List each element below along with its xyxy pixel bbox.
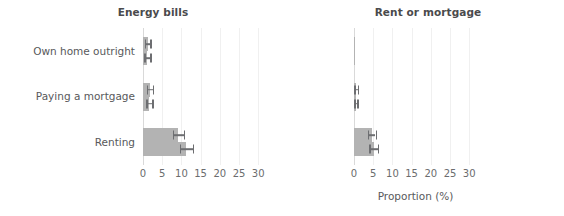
error-bar-cap — [173, 131, 175, 140]
x-axis-rent-or-mortgage: 0 5 10 15 20 25 30 — [354, 165, 477, 187]
y-tick-label-own-home-outright: Own home outright — [33, 45, 135, 57]
bar-row — [143, 97, 266, 111]
x-tick-label: 20 — [424, 168, 437, 179]
error-bar-cap — [368, 131, 370, 140]
bar-row — [143, 128, 266, 142]
bar-row — [354, 97, 477, 111]
x-axis-energy-bills: 0 5 10 15 20 25 30 — [143, 165, 266, 187]
error-bar-cap — [193, 145, 195, 154]
error-bar-cap — [354, 85, 356, 94]
x-tick-label: 10 — [175, 168, 188, 179]
bar-row — [354, 51, 477, 65]
bar-row — [354, 37, 477, 51]
bar-row — [354, 128, 477, 142]
x-tick-label: 15 — [405, 168, 418, 179]
panel-energy-bills: Energy bills Own home outright — [0, 0, 282, 216]
error-bar-cap — [180, 145, 182, 154]
error-bar-cap — [152, 99, 154, 108]
x-tick-label: 0 — [140, 168, 146, 179]
category-group-paying-a-mortgage: Paying a mortgage — [143, 74, 266, 120]
bar-row — [143, 83, 266, 97]
x-tick-label: 5 — [370, 168, 376, 179]
error-bar-cap — [147, 85, 149, 94]
x-tick-label: 15 — [194, 168, 207, 179]
x-tick-label: 30 — [463, 168, 476, 179]
error-bar-cap — [146, 99, 148, 108]
figure: Energy bills Own home outright — [0, 0, 564, 216]
error-bar — [173, 134, 184, 136]
x-tick-label: 20 — [213, 168, 226, 179]
plot-area-energy-bills: Own home outright Paying a mortgage — [143, 28, 266, 165]
error-bar-cap — [358, 85, 360, 94]
panel-title-rent-or-mortgage: Rent or mortgage — [282, 6, 564, 18]
error-bar-cap — [150, 54, 152, 63]
error-bar-cap — [153, 85, 155, 94]
error-bar-cap — [357, 99, 359, 108]
error-bar-cap — [376, 131, 378, 140]
error-bar-cap — [378, 145, 380, 154]
x-tick-label: 30 — [252, 168, 265, 179]
x-axis-label: Proportion (%) — [354, 190, 477, 202]
category-group-paying-a-mortgage — [354, 74, 477, 120]
x-tick-label: 25 — [233, 168, 246, 179]
category-group-renting: Renting — [143, 119, 266, 165]
bar-row — [354, 83, 477, 97]
category-group-own-home-outright — [354, 28, 477, 74]
bar-row — [354, 142, 477, 156]
x-tick-label: 5 — [159, 168, 165, 179]
error-bar-cap — [184, 131, 186, 140]
panel-rent-or-mortgage: Rent or mortgage — [282, 0, 564, 216]
x-tick-label: 10 — [386, 168, 399, 179]
bar-row — [143, 51, 266, 65]
y-tick-label-paying-a-mortgage: Paying a mortgage — [36, 90, 135, 102]
error-bar-cap — [369, 145, 371, 154]
category-group-renting — [354, 119, 477, 165]
plot-area-rent-or-mortgage — [354, 28, 477, 165]
bar-row — [143, 37, 266, 51]
error-bar — [180, 148, 193, 150]
error-bar-cap — [145, 40, 147, 49]
y-tick-label-renting: Renting — [95, 136, 135, 148]
error-bar-cap — [144, 54, 146, 63]
category-group-own-home-outright: Own home outright — [143, 28, 266, 74]
x-tick-label: 25 — [444, 168, 457, 179]
error-bar-cap — [150, 40, 152, 49]
x-tick-label: 0 — [351, 168, 357, 179]
bar-row — [143, 142, 266, 156]
panel-title-energy-bills: Energy bills — [0, 6, 282, 18]
error-bar-cap — [354, 99, 356, 108]
